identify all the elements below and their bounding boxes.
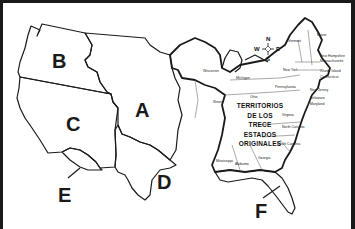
- title-line: TRECE: [230, 120, 290, 130]
- state-label-maine: Maine: [317, 34, 327, 38]
- state-label-new-york: New York: [283, 69, 298, 73]
- state-label-georgia: Georgia: [258, 157, 270, 161]
- compass-east: E: [276, 46, 280, 52]
- state-label-pennsylvania: Pennsylvania: [275, 86, 296, 90]
- compass-north: N: [266, 36, 270, 42]
- state-label-alabama: Alabama: [235, 163, 249, 167]
- state-label-vermont: Vermont: [288, 40, 301, 44]
- state-label-mississippi: Mississippi: [216, 160, 233, 164]
- state-label-rhode-island: Rhode Island: [320, 70, 341, 74]
- state-label-ohio: Ohio: [250, 96, 257, 100]
- region-f-label: F: [255, 201, 267, 221]
- state-label-new-hampshire: New Hampshire: [320, 55, 345, 59]
- state-label-new-jersey: New Jersey: [310, 89, 328, 93]
- region-b-label: B: [52, 51, 66, 71]
- state-label-michigan: Michigan: [236, 77, 250, 81]
- state-label-virginia: Virginia: [282, 114, 294, 118]
- f-pointer: [263, 186, 280, 198]
- state-label-illinois: Illinois: [213, 101, 223, 105]
- compass-west: W: [254, 46, 260, 52]
- region-d-label: D: [157, 172, 171, 192]
- compass-south: S: [266, 56, 270, 62]
- title-line: TERRITORIOS: [230, 101, 290, 111]
- state-label-maryland: Maryland: [310, 103, 324, 107]
- region-e-outline: [62, 148, 102, 170]
- e-pointer: [68, 168, 80, 178]
- title-line: DE LOS: [230, 111, 290, 121]
- state-label-north-carolina: North Carolina: [282, 126, 305, 130]
- state-label-delaware: Delaware: [310, 97, 325, 101]
- region-e-label: E: [58, 185, 71, 205]
- state-label-south-carolina: South Carolina: [277, 143, 300, 147]
- us-territorial-map: [0, 0, 355, 229]
- region-c-label: C: [66, 114, 80, 134]
- state-label-massachusetts: Massachusetts: [320, 60, 343, 64]
- region-a-outline: [85, 33, 182, 160]
- state-label-wisconsin: Wisconsin: [203, 70, 219, 74]
- title-line: ESTADOS: [230, 130, 290, 140]
- state-label-connecticut: Connecticut: [320, 76, 338, 80]
- region-a-label: A: [135, 100, 149, 120]
